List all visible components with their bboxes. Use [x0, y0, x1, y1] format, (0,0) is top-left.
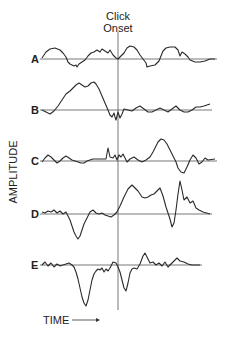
title-line-1: Click	[106, 10, 130, 22]
trace-label-c: C	[31, 155, 39, 167]
click-onset-figure: Click Onset A B C D E AMPLITUDE TIME	[0, 0, 230, 338]
trace-label-a: A	[31, 53, 39, 65]
baselines	[40, 59, 217, 265]
x-axis-label: TIME	[43, 314, 69, 326]
trace-d	[42, 181, 210, 239]
trace-label-b: B	[31, 104, 39, 116]
y-axis-label: AMPLITUDE	[7, 141, 19, 204]
trace-c	[42, 139, 215, 173]
trace-b	[42, 82, 210, 120]
time-arrow-icon	[72, 318, 100, 322]
trace-e	[42, 253, 200, 306]
trace-label-e: E	[31, 259, 38, 271]
traces	[42, 46, 215, 306]
trace-a	[42, 46, 215, 67]
trace-label-d: D	[31, 208, 39, 220]
